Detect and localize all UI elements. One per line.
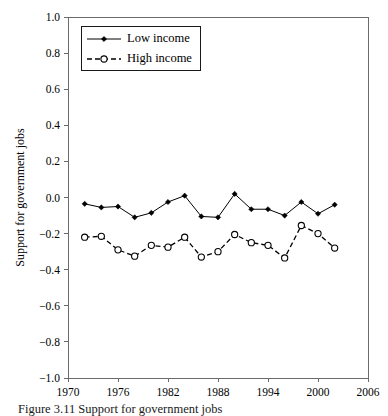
data-point-open (198, 254, 204, 260)
y-tick-label: 0.4 (46, 119, 61, 131)
data-point-filled (265, 207, 270, 212)
y-tick-label: −0.8 (39, 336, 60, 348)
x-tick-label: 2006 (357, 386, 380, 398)
y-tick-label: −0.2 (39, 228, 60, 240)
series-line-1 (85, 194, 335, 217)
legend-label-2: High income (127, 51, 192, 65)
x-tick-label: 2000 (307, 386, 330, 398)
x-axis-ticks: 1970197619821988199420002006 (57, 378, 380, 398)
chart-legend: Low incomeHigh income (81, 26, 200, 70)
x-tick-label: 1994 (257, 386, 280, 398)
figure-container: −1.0−0.8−0.6−0.4−0.20.00.20.40.60.81.0 1… (0, 0, 388, 416)
legend-label-1: Low income (127, 31, 190, 45)
data-point-open (298, 222, 304, 228)
data-point-open (248, 240, 254, 246)
x-tick-label: 1988 (207, 386, 230, 398)
line-chart: −1.0−0.8−0.6−0.4−0.20.00.20.40.60.81.0 1… (0, 0, 388, 416)
data-series-group (82, 191, 338, 261)
data-point-open (132, 253, 138, 259)
figure-caption: Figure 3.11 Support for government jobs (18, 402, 378, 416)
series-line-2 (85, 225, 335, 257)
y-axis-title: Support for government jobs (13, 128, 27, 267)
data-point-filled (99, 205, 104, 210)
y-tick-label: 0.0 (46, 192, 61, 204)
data-point-filled (149, 210, 154, 215)
x-tick-label: 1970 (57, 386, 80, 398)
data-point-open (115, 247, 121, 253)
data-point-filled (115, 204, 120, 209)
x-tick-label: 1982 (157, 386, 180, 398)
data-point-filled (82, 201, 87, 206)
data-point-open (232, 231, 238, 237)
y-tick-label: −1.0 (39, 372, 60, 384)
data-point-open (332, 245, 338, 251)
y-tick-label: 0.6 (46, 83, 61, 95)
data-point-filled (132, 215, 137, 220)
data-point-filled (165, 199, 170, 204)
data-point-open (315, 231, 321, 237)
data-point-filled (332, 202, 337, 207)
data-point-open (182, 234, 188, 240)
plot-frame (68, 17, 368, 378)
data-point-open (165, 244, 171, 250)
data-point-open (265, 242, 271, 248)
y-tick-label: 0.8 (46, 47, 61, 59)
data-point-open (215, 249, 221, 255)
y-axis-ticks: −1.0−0.8−0.6−0.4−0.20.00.20.40.60.81.0 (39, 11, 68, 384)
y-tick-label: −0.4 (39, 264, 60, 276)
y-tick-label: 0.2 (46, 155, 61, 167)
data-point-open (98, 233, 104, 239)
data-point-open (82, 234, 88, 240)
y-tick-label: −0.6 (39, 300, 60, 312)
x-tick-label: 1976 (107, 386, 130, 398)
legend-marker-open (101, 56, 107, 62)
data-point-open (282, 255, 288, 261)
data-point-open (148, 242, 154, 248)
y-tick-label: 1.0 (46, 11, 61, 23)
